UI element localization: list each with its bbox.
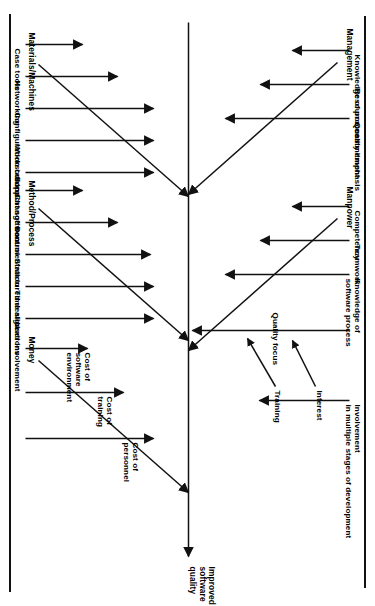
category-label-money: Money — [26, 336, 35, 363]
subcause-label-training: Training — [272, 390, 281, 422]
cause-label-cost-of-training: Cost of training — [95, 396, 113, 506]
subcause-label-interest: Interest — [314, 390, 323, 420]
cause-label-involvement-multiple-stages: Involvement in multiple stages of develo… — [343, 404, 361, 604]
fishbone-lines — [0, 0, 375, 606]
cause-label-user-involvement: User involvement — [12, 322, 21, 391]
cause-label-quality-focus: Quality focus — [270, 312, 279, 365]
fishbone-diagram: Improved software quality Materials/Mach… — [0, 0, 375, 606]
scanned-figure-page: Improved software quality Materials/Mach… — [0, 0, 375, 606]
subcause-arrow-interest — [292, 340, 315, 386]
cause-label-cost-of-software-environment: Cost of software environment — [64, 352, 91, 472]
bone-method-process — [38, 208, 188, 340]
cause-label-knowledge-of-software-process: Knowledge of software process — [343, 278, 361, 408]
effect-label: Improved software quality — [187, 566, 215, 606]
bone-management — [188, 62, 337, 194]
cause-label-cost-of-personnel: Cost of personnel — [121, 442, 139, 552]
category-label-materials-machines: Materials/Machines — [26, 32, 35, 111]
fishbone-diagram-stage: Improved software quality Materials/Mach… — [0, 0, 375, 606]
bone-materials-machines — [38, 64, 188, 196]
cause-label-quality-emphasis: Quality emphasis — [352, 122, 361, 191]
category-label-method-process: Method/Process — [26, 180, 35, 246]
